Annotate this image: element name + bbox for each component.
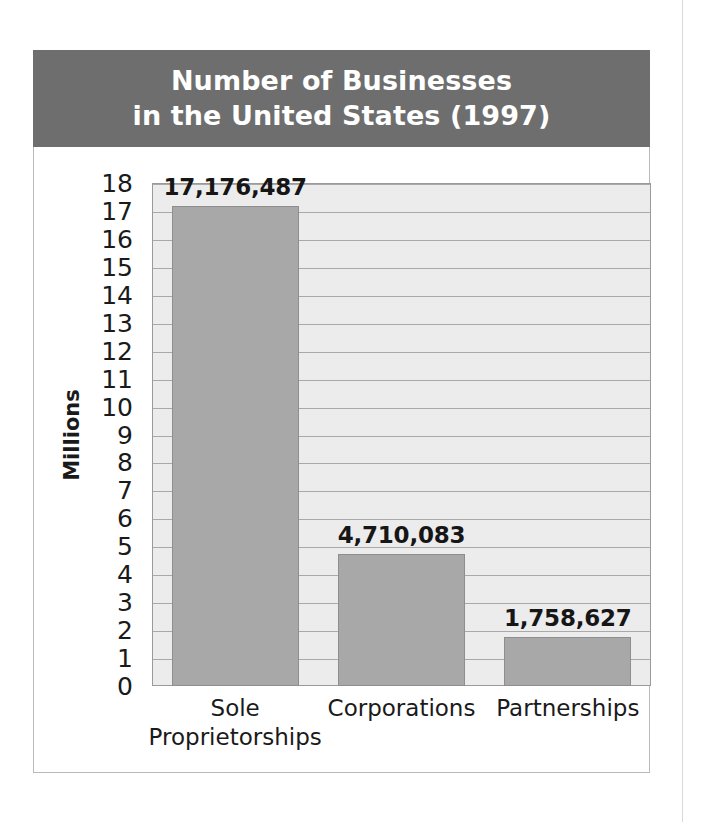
- y-tick-label: 2: [95, 618, 133, 643]
- bar-value-label: 1,758,627: [504, 605, 632, 631]
- y-tick-label: 0: [95, 674, 133, 699]
- y-tick-label: 1: [95, 646, 133, 671]
- y-tick-label: 18: [95, 171, 133, 196]
- page-edge-line: [682, 0, 683, 822]
- bar: [172, 206, 299, 686]
- category-label: Partnerships: [496, 694, 639, 723]
- y-tick-label: 4: [95, 562, 133, 587]
- y-axis-tick-labels: 1817161514131211109876543210: [95, 183, 133, 686]
- y-tick-label: 10: [95, 394, 133, 419]
- y-tick-label: 13: [95, 310, 133, 335]
- y-tick-label: 11: [95, 366, 133, 391]
- y-tick-label: 5: [95, 534, 133, 559]
- bars-layer: 17,176,4874,710,0831,758,627: [152, 183, 651, 686]
- y-tick-label: 7: [95, 478, 133, 503]
- y-tick-label: 16: [95, 226, 133, 251]
- y-tick-label: 6: [95, 506, 133, 531]
- y-tick-label: 12: [95, 338, 133, 363]
- x-axis-category-labels: Sole ProprietorshipsCorporationsPartners…: [152, 694, 651, 764]
- y-tick-label: 17: [95, 198, 133, 223]
- y-tick-label: 9: [95, 422, 133, 447]
- chart-title-band: Number of Businesses in the United State…: [33, 50, 650, 147]
- category-label: Corporations: [328, 694, 476, 723]
- y-tick-label: 3: [95, 590, 133, 615]
- bar-value-label: 4,710,083: [338, 522, 466, 548]
- bar: [504, 637, 631, 686]
- y-tick-label: 14: [95, 282, 133, 307]
- bar: [338, 554, 465, 686]
- y-tick-label: 15: [95, 254, 133, 279]
- y-tick-label: 8: [95, 450, 133, 475]
- y-axis-title: Millions: [60, 389, 84, 481]
- bar-value-label: 17,176,487: [163, 174, 307, 200]
- category-label: Sole Proprietorships: [149, 694, 322, 753]
- chart-title: Number of Businesses in the United State…: [133, 64, 551, 132]
